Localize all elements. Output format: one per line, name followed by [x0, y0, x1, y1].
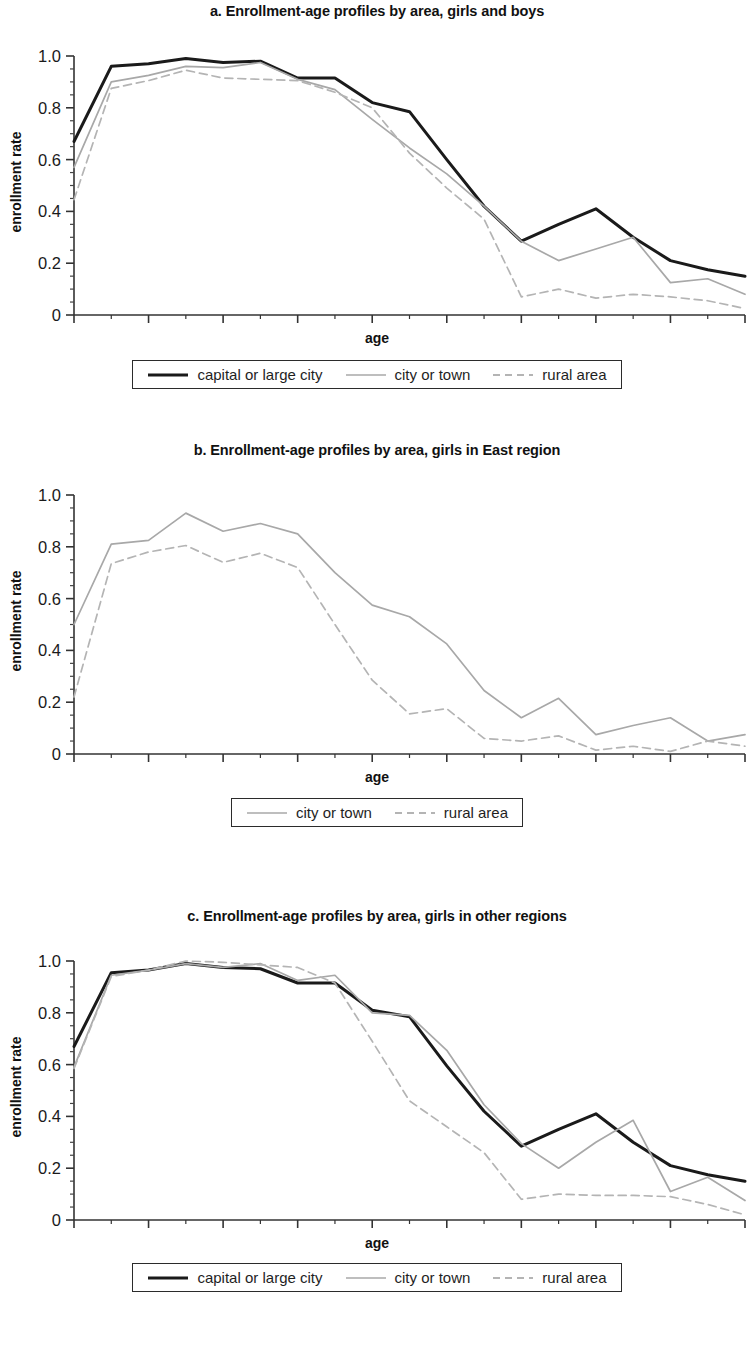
legend-line-dashed-gray-icon — [492, 369, 534, 381]
legend-item-capital-c[interactable]: capital or large city — [147, 1269, 322, 1286]
legend-label-rural-b: rural area — [444, 804, 508, 821]
legend-box-a: capital or large city city or town rural… — [132, 360, 621, 389]
legend-item-city-c[interactable]: city or town — [345, 1269, 471, 1286]
svg-text:0.4: 0.4 — [38, 641, 61, 659]
svg-text:0.2: 0.2 — [38, 1159, 61, 1177]
legend-line-solid-gray-icon — [345, 1272, 387, 1284]
figure-root: a. Enrollment-age profiles by area, girl… — [0, 0, 754, 1347]
panel-c-plot-area: enrollment rate 1.00.80.60.40.2068101214… — [0, 924, 754, 1251]
svg-text:0.6: 0.6 — [38, 1056, 61, 1074]
panel-a-title: a. Enrollment-age profiles by area, girl… — [0, 0, 754, 19]
legend-label-rural: rural area — [542, 366, 606, 383]
legend-line-solid-gray-icon — [345, 369, 387, 381]
svg-text:1.0: 1.0 — [38, 486, 61, 504]
svg-text:0.8: 0.8 — [38, 538, 61, 556]
panel-c-title: c. Enrollment-age profiles by area, girl… — [0, 880, 754, 924]
legend-item-city[interactable]: city or town — [345, 366, 471, 383]
svg-text:0.4: 0.4 — [38, 202, 61, 220]
legend-box-b: city or town rural area — [231, 798, 523, 827]
panel-b-plot-area: enrollment rate 1.00.80.60.40.2068101214… — [0, 458, 754, 785]
panel-b-legend: city or town rural area — [0, 798, 754, 827]
svg-text:0.2: 0.2 — [38, 254, 61, 272]
legend-line-dashed-gray-icon — [492, 1272, 534, 1284]
legend-line-dashed-gray-icon — [394, 807, 436, 819]
panel-a-plot-area: enrollment rate 1.00.80.60.40.2068101214… — [0, 19, 754, 346]
legend-line-solid-dark-icon — [147, 369, 189, 381]
svg-text:0.4: 0.4 — [38, 1107, 61, 1125]
legend-box-c: capital or large city city or town rural… — [132, 1263, 621, 1292]
panel-a-svg: 1.00.80.60.40.20681012141618202224 — [0, 19, 754, 329]
panel-b-y-axis-label: enrollment rate — [8, 556, 24, 686]
svg-text:0.8: 0.8 — [38, 1004, 61, 1022]
svg-text:0: 0 — [52, 1211, 61, 1229]
svg-text:1.0: 1.0 — [38, 47, 61, 65]
panel-a-x-axis-label: age — [0, 330, 754, 346]
svg-text:0.6: 0.6 — [38, 151, 61, 169]
panel-a-y-axis-label: enrollment rate — [8, 117, 24, 247]
svg-text:0.2: 0.2 — [38, 693, 61, 711]
legend-item-rural-c[interactable]: rural area — [492, 1269, 606, 1286]
svg-text:0.8: 0.8 — [38, 99, 61, 117]
legend-label-city: city or town — [395, 366, 471, 383]
legend-line-solid-dark-icon — [147, 1272, 189, 1284]
legend-item-capital[interactable]: capital or large city — [147, 366, 322, 383]
panel-c: c. Enrollment-age profiles by area, girl… — [0, 880, 754, 1347]
panel-c-svg: 1.00.80.60.40.20681012141618202224 — [0, 924, 754, 1234]
panel-b: b. Enrollment-age profiles by area, girl… — [0, 420, 754, 880]
legend-item-rural[interactable]: rural area — [492, 366, 606, 383]
svg-text:0.6: 0.6 — [38, 590, 61, 608]
legend-label-city-c: city or town — [395, 1269, 471, 1286]
panel-b-x-axis-label: age — [0, 769, 754, 785]
panel-c-legend: capital or large city city or town rural… — [0, 1263, 754, 1292]
legend-label-rural-c: rural area — [542, 1269, 606, 1286]
svg-text:0: 0 — [52, 745, 61, 763]
legend-label-capital: capital or large city — [197, 366, 322, 383]
svg-text:0: 0 — [52, 306, 61, 324]
panel-a-legend: capital or large city city or town rural… — [0, 360, 754, 389]
legend-line-solid-gray-icon — [246, 807, 288, 819]
svg-text:1.0: 1.0 — [38, 952, 61, 970]
panel-b-title: b. Enrollment-age profiles by area, girl… — [0, 420, 754, 458]
panel-c-x-axis-label: age — [0, 1235, 754, 1251]
legend-item-rural-b[interactable]: rural area — [394, 804, 508, 821]
panel-b-svg: 1.00.80.60.40.20681012141618202224 — [0, 458, 754, 768]
legend-label-city-b: city or town — [296, 804, 372, 821]
legend-item-city-b[interactable]: city or town — [246, 804, 372, 821]
legend-label-capital-c: capital or large city — [197, 1269, 322, 1286]
panel-c-y-axis-label: enrollment rate — [8, 1022, 24, 1152]
panel-a: a. Enrollment-age profiles by area, girl… — [0, 0, 754, 420]
